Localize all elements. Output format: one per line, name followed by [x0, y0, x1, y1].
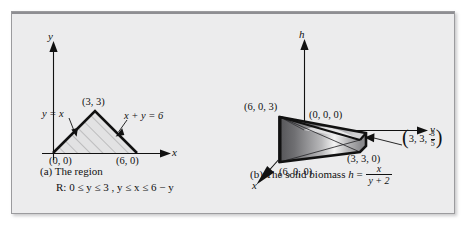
label-apex: (3, 3)	[82, 96, 105, 107]
axis-label-y: y	[48, 30, 53, 42]
label-line-x-plus-y: x + y = 6	[124, 110, 163, 121]
label-point-3-3-three-fifths: (3, 3, 3 5 )	[402, 130, 442, 149]
label-point-6-0-3: (6, 0, 3)	[244, 101, 277, 112]
label-line-y-equals-x: y = x	[42, 108, 64, 119]
caption-a-line1: (a) The region	[40, 164, 174, 180]
fraction-numerator: 3	[431, 130, 435, 139]
panel-solid: y h x (6, 0, 3) (0, 0, 0) (6, 0, 0) (3, …	[234, 12, 456, 215]
caption-fraction-denominator: y + 2	[366, 174, 391, 186]
label-coord-h-fraction: 3 5	[431, 130, 435, 149]
label-point-0-0-0: (0, 0, 0)	[309, 109, 342, 120]
panel-region: x y (0, 0) (3, 3) (6, 0) y = x x + y = 6…	[12, 12, 234, 215]
label-coord-x: 3	[409, 133, 414, 144]
caption-b-equals: =	[356, 168, 362, 180]
fraction-denominator: 5	[431, 139, 435, 149]
figure-plate: x y (0, 0) (3, 3) (6, 0) y = x x + y = 6…	[11, 11, 455, 214]
axis-label-h: h	[299, 28, 305, 40]
caption-b-variable: h	[348, 168, 354, 180]
caption-a-line2: R: 0 ≤ y ≤ 3 , y ≤ x ≤ 6 − y	[40, 180, 174, 196]
point-leader-line	[374, 138, 402, 145]
caption-b-fraction: x y + 2	[366, 163, 391, 186]
figure-root: x y (0, 0) (3, 3) (6, 0) y = x x + y = 6…	[0, 0, 466, 228]
label-coord-y: 3	[419, 133, 424, 144]
axis-label-x: x	[172, 146, 177, 158]
caption-panel-a: (a) The region R: 0 ≤ y ≤ 3 , y ≤ x ≤ 6 …	[40, 164, 174, 196]
y-axis-arrowhead	[49, 41, 57, 52]
x-axis-arrowhead	[160, 149, 171, 157]
caption-fraction-numerator: x	[366, 163, 391, 174]
h-axis-arrowhead	[300, 39, 308, 50]
caption-b-text: (b) The solid biomass	[250, 168, 345, 180]
caption-panel-b: (b) The solid biomass h = x y + 2	[250, 164, 393, 187]
